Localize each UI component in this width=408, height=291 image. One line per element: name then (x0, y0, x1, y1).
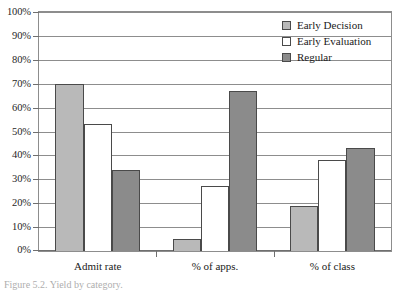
bar (173, 239, 201, 251)
y-axis-label: 20% (12, 198, 31, 209)
bar (346, 148, 374, 251)
y-axis-label: 40% (12, 150, 31, 161)
bar (290, 206, 318, 251)
legend: Early DecisionEarly EvaluationRegular (282, 19, 371, 64)
y-axis-label: 90% (12, 31, 31, 42)
legend-item: Early Decision (282, 19, 371, 32)
legend-label: Early Decision (297, 20, 363, 31)
y-axis-label: 70% (12, 79, 31, 90)
y-axis-label: 50% (12, 127, 31, 138)
y-axis-label: 30% (12, 174, 31, 185)
bar-group (55, 12, 140, 251)
bar (229, 91, 257, 251)
x-axis-tick (156, 251, 157, 257)
legend-item: Regular (282, 51, 371, 64)
y-axis-label: 0% (17, 245, 31, 256)
legend-label: Early Evaluation (297, 36, 371, 47)
x-axis-label: % of apps. (192, 261, 239, 272)
x-axis-tick (274, 251, 275, 257)
bar (84, 124, 112, 251)
bar (112, 170, 140, 251)
bar-group (173, 12, 258, 251)
bar (55, 84, 83, 251)
legend-swatch-icon (282, 53, 291, 62)
figure: 0%10%20%30%40%50%60%70%80%90%100% Admit … (0, 0, 408, 291)
bar (201, 186, 229, 251)
legend-label: Regular (297, 52, 332, 63)
y-axis-label: 60% (12, 103, 31, 114)
x-axis-label: Admit rate (74, 261, 121, 272)
legend-item: Early Evaluation (282, 35, 371, 48)
plot-area: 0%10%20%30%40%50%60%70%80%90%100% Admit … (39, 12, 391, 251)
figure-caption: Figure 5.2. Yield by category. (4, 279, 304, 291)
x-axis-label: % of class (310, 261, 355, 272)
bar (318, 160, 346, 251)
y-axis-label: 80% (12, 55, 31, 66)
legend-swatch-icon (282, 37, 291, 46)
y-axis-label: 10% (12, 222, 31, 233)
y-axis-label: 100% (7, 7, 31, 18)
legend-swatch-icon (282, 21, 291, 30)
